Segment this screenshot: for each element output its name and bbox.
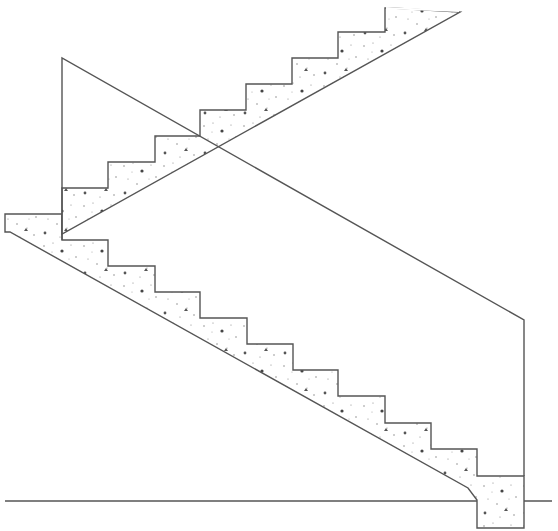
upper-flight bbox=[62, 8, 460, 234]
staircase-section-drawing bbox=[0, 0, 558, 531]
lower-flight bbox=[5, 214, 524, 528]
